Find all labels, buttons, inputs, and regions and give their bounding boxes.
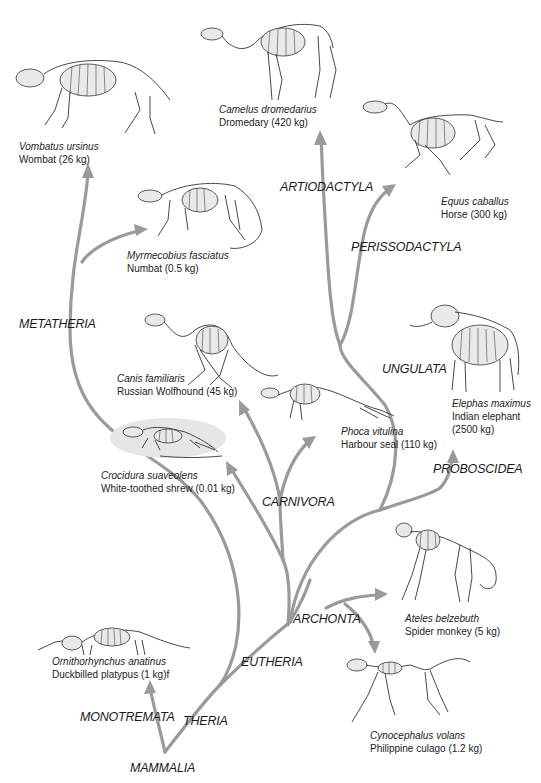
culago-skeleton-icon [347,659,470,722]
species-horse-scientific: Equus caballus [441,196,509,207]
arrowhead-culago-icon [368,641,380,654]
branch-carnivora-trunk [283,560,289,625]
species-wolfhound-scientific: Canis familiaris [117,373,185,384]
arrowhead-platypus-icon [144,680,156,694]
branch-spider-monkey [326,595,378,608]
species-numbat-common: Numbat (0.5 kg) [127,263,199,274]
clade-ungulata: UNGULATA [382,362,447,376]
species-shrew-common: White-toothed shrew (0.01 kg) [101,483,235,494]
species-wolfhound-common: Russian Wolfhound (45 kg) [117,386,237,397]
clade-monotremata: MONOTREMATA [80,710,175,724]
arrowhead-elephant-icon [447,449,459,463]
horse-skeleton-icon [363,101,503,175]
species-elephant-common: Indian elephant [452,411,521,422]
clade-archonta: ARCHONTA [292,612,361,626]
species-elephant-scientific: Elephas maximus [452,398,531,409]
arrowhead-wombat-icon [82,163,94,178]
arrowhead-dromedary-icon [314,130,327,145]
species-horse-common: Horse (300 kg) [441,209,507,220]
branch-artiodactyla [321,140,340,345]
branch-seal [280,442,308,500]
species-shrew-scientific: Crocidura suaveolens [101,470,198,481]
shrew-skeleton-icon [110,418,226,458]
species-wombat-scientific: Vombatus ursinus [19,141,99,152]
clade-metatheria: METATHERIA [19,317,96,331]
clade-artiodactyla: ARTIODACTYLA [279,180,373,194]
wombat-skeleton-icon [16,61,170,135]
clade-proboscidea: PROBOSCIDEA [433,462,523,476]
clade-perissodactyla: PERISSODACTYLA [351,240,461,254]
clade-carnivora: CARNIVORA [262,495,335,509]
species-platypus-scientific: Ornithorhynchus anatinus [52,656,166,667]
arrowhead-numbat-icon [134,224,148,236]
species-elephant-mass: (2500 kg) [452,424,494,435]
spider-monkey-skeleton-icon [396,523,496,602]
branch-perissodactyla [340,190,388,345]
platypus-skeleton-icon [38,628,190,655]
species-spider-monkey-common: Spider monkey (5 kg) [405,626,500,637]
seal-skeleton-icon [261,384,394,420]
species-platypus-common: Duckbilled platypus (1 kg)f [52,669,169,680]
species-dromedary-scientific: Camelus dromedarius [219,104,317,115]
dromedary-skeleton-icon [201,24,336,100]
branch-wolfhound [245,410,280,500]
clade-eutheria: EUTHERIA [241,655,303,669]
phylogeny-diagram: MAMMALIA MONOTREMATA THERIA METATHERIA E… [0,0,541,783]
numbat-skeleton-icon [138,183,262,248]
species-numbat-scientific: Myrmecobius fasciatus [127,250,229,261]
species-culago-scientific: Cynocephalus volans [370,730,465,741]
species-seal-scientific: Phoca vitulina [341,426,404,437]
arrowhead-shrew-icon [226,461,238,476]
species-culago-common: Philippine culago (1.2 kg) [370,743,482,754]
clade-theria: THERIA [183,714,228,728]
elephant-skeleton-icon [410,305,519,392]
branch-eutheria [220,622,290,685]
species-spider-monkey-scientific: Ateles belzebuth [404,613,479,624]
clade-mammalia: MAMMALIA [130,761,195,775]
arrowhead-spider-monkey-icon [375,588,388,601]
species-dromedary-common: Dromedary (420 kg) [219,117,308,128]
species-wombat-common: Wombat (26 kg) [19,154,90,165]
species-seal-common: Harbour seal (110 kg) [341,439,437,450]
